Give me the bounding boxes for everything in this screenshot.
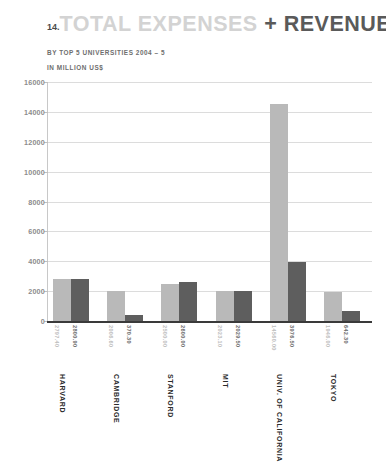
bar-expenses[interactable] xyxy=(53,279,71,321)
bar-revenue[interactable] xyxy=(125,315,143,321)
bar-group xyxy=(216,82,252,321)
bar-revenue[interactable] xyxy=(288,262,306,321)
bar-revenue[interactable] xyxy=(234,291,252,321)
value-label: 642.30 xyxy=(343,325,349,344)
value-label: 2006.60 xyxy=(108,325,114,347)
bar-group xyxy=(107,82,143,321)
y-tick-label: 6000 xyxy=(1,227,45,236)
bar-expenses[interactable] xyxy=(324,292,342,321)
bar-group xyxy=(53,82,89,321)
category-label: UNIV. OF CALIFORNIA xyxy=(276,374,283,462)
category-label: STANFORD xyxy=(167,374,174,418)
bar-expenses[interactable] xyxy=(161,284,179,321)
bars-layer xyxy=(47,82,372,321)
bar-group xyxy=(324,82,360,321)
value-label-group: 2023.102029.50 xyxy=(216,325,252,369)
bar-expenses[interactable] xyxy=(270,104,288,321)
bar-revenue[interactable] xyxy=(179,282,197,321)
y-tick-label: 8000 xyxy=(1,197,45,206)
bar-expenses[interactable] xyxy=(107,291,125,321)
value-label: 2023.10 xyxy=(217,325,223,347)
value-label: 3976.50 xyxy=(289,325,295,347)
bar-expenses[interactable] xyxy=(216,291,234,321)
y-tick-label: 10000 xyxy=(1,167,45,176)
bar-revenue[interactable] xyxy=(71,279,89,321)
value-label: 370.30 xyxy=(126,325,132,344)
bar-revenue[interactable] xyxy=(342,311,360,321)
value-label-group: 2500.002600.00 xyxy=(161,325,197,369)
category-label: CAMBRIDGE xyxy=(113,374,120,423)
plot-area: 0200040006000800010000120001400016000 27… xyxy=(0,0,386,468)
y-tick-label: 2000 xyxy=(1,287,45,296)
chart-page: 14.TOTAL EXPENSES + REVENUE BY TOP 5 UNI… xyxy=(0,0,386,468)
bar-group xyxy=(161,82,197,321)
value-label: 1946.00 xyxy=(325,325,331,347)
value-label-group: 14560.003976.50 xyxy=(270,325,306,369)
value-label: 2600.00 xyxy=(180,325,186,347)
value-label-group: 2797.402800.90 xyxy=(53,325,89,369)
y-tick-label: 12000 xyxy=(1,137,45,146)
y-tick-label: 4000 xyxy=(1,257,45,266)
category-labels: HARVARDCAMBRIDGESTANFORDMITUNIV. OF CALI… xyxy=(47,374,372,464)
value-label: 2500.00 xyxy=(162,325,168,347)
bar-group xyxy=(270,82,306,321)
category-label: HARVARD xyxy=(59,374,66,413)
y-tick-label: 14000 xyxy=(1,107,45,116)
bar-value-labels: 2797.402800.902006.60370.302500.002600.0… xyxy=(47,325,372,369)
value-label-group: 2006.60370.30 xyxy=(107,325,143,369)
category-label: TOKYO xyxy=(330,374,337,402)
y-tick-label: 16000 xyxy=(1,78,45,87)
value-label: 14560.00 xyxy=(271,325,277,351)
category-label: MIT xyxy=(222,374,229,388)
value-label: 2800.90 xyxy=(72,325,78,347)
x-axis-line xyxy=(47,321,372,323)
y-tick-label: 0 xyxy=(1,317,45,326)
value-label: 2797.40 xyxy=(54,325,60,347)
value-label-group: 1946.00642.30 xyxy=(324,325,360,369)
value-label: 2029.50 xyxy=(235,325,241,347)
